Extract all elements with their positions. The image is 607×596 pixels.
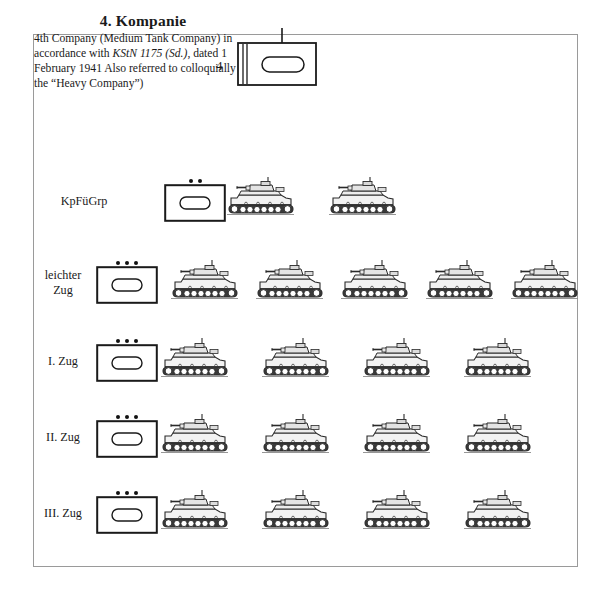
echelon-dot <box>189 179 193 183</box>
echelon-dots <box>96 484 158 500</box>
tank-strip <box>158 336 535 382</box>
unit-label-line1: leichter <box>45 268 82 282</box>
echelon-dot <box>116 415 120 419</box>
tank-icon <box>259 488 333 534</box>
tank-icon <box>423 258 497 304</box>
echelon-dot <box>134 339 138 343</box>
unit-row: KpFüGrp <box>0 168 545 244</box>
echelon-dot <box>134 415 138 419</box>
echelon-dots <box>96 332 158 348</box>
company-size-label: 4 <box>216 59 223 72</box>
tank-icon <box>360 336 434 382</box>
unit-label-ii-zug: II. Zug <box>22 430 104 445</box>
tank-icon <box>461 412 535 458</box>
echelon-dot <box>125 491 129 495</box>
echelon-dots <box>96 254 158 270</box>
company-symbol-icon <box>216 22 336 92</box>
echelon-dots <box>164 172 226 188</box>
unit-label-iii-zug: III. Zug <box>22 506 104 521</box>
unit-label-line2: Zug <box>53 283 73 297</box>
tank-icon <box>158 412 232 458</box>
tank-icon <box>168 258 242 304</box>
tank-strip <box>224 174 400 220</box>
tank-icon <box>158 488 232 534</box>
echelon-dot <box>116 339 120 343</box>
tank-icon <box>253 258 327 304</box>
unit-row: leichterZug <box>0 248 545 324</box>
tank-icon <box>360 488 434 534</box>
armor-track-icon <box>96 290 158 307</box>
unit-row: III. Zug <box>0 478 545 554</box>
armor-track-icon <box>96 444 158 461</box>
echelon-dot <box>134 491 138 495</box>
tank-icon <box>259 412 333 458</box>
company-symbol-group: 4 <box>216 22 356 92</box>
unit-symbol-box <box>96 420 158 458</box>
armor-track-icon <box>96 368 158 385</box>
echelon-dot <box>125 339 129 343</box>
unit-symbol-box <box>164 184 226 222</box>
unit-row: II. Zug <box>0 402 545 478</box>
unit-symbol-box <box>96 496 158 534</box>
armor-track-icon <box>96 520 158 537</box>
tank-icon <box>338 258 412 304</box>
echelon-dot <box>116 261 120 265</box>
tank-strip <box>168 258 582 304</box>
kstn-reference: KStN 1175 (Sd.) <box>113 47 188 60</box>
tank-icon <box>259 336 333 382</box>
tank-icon <box>158 336 232 382</box>
echelon-dots <box>96 408 158 424</box>
echelon-dot <box>125 415 129 419</box>
unit-label-i-zug: I. Zug <box>22 354 104 369</box>
tank-strip <box>158 488 535 534</box>
tank-icon <box>508 258 582 304</box>
tank-strip <box>158 412 535 458</box>
unit-symbol-box <box>96 266 158 304</box>
unit-symbol-box <box>96 344 158 382</box>
echelon-dot <box>116 491 120 495</box>
tank-icon <box>326 174 400 220</box>
tank-icon <box>461 488 535 534</box>
echelon-dot <box>134 261 138 265</box>
unit-label-leichter-zug: leichterZug <box>22 268 104 298</box>
unit-label-kpf-grp: KpFüGrp <box>38 194 130 209</box>
tank-icon <box>461 336 535 382</box>
armor-track-icon <box>164 208 226 225</box>
echelon-dot <box>125 261 129 265</box>
tank-icon <box>360 412 434 458</box>
unit-row: I. Zug <box>0 326 545 402</box>
tank-icon <box>224 174 298 220</box>
echelon-dot <box>198 179 202 183</box>
